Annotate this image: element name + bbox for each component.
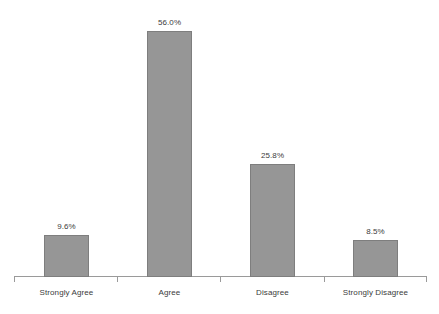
x-axis-tick-3 (324, 277, 325, 282)
bar-agree (147, 31, 192, 277)
plot-area: 9.6% Strongly Agree 56.0% Agree 25.8% Di… (0, 0, 439, 314)
x-axis-tick-2 (220, 277, 221, 282)
x-axis-tick-1 (117, 277, 118, 282)
bar-strongly-disagree (353, 240, 398, 277)
bar-value-strongly-disagree: 8.5% (345, 227, 406, 236)
bar-value-disagree: 25.8% (242, 151, 303, 160)
bar-strongly-agree (44, 235, 89, 277)
bar-disagree (250, 164, 295, 277)
category-label-strongly-disagree: Strongly Disagree (325, 288, 426, 297)
category-label-strongly-agree: Strongly Agree (16, 288, 117, 297)
category-label-disagree: Disagree (222, 288, 323, 297)
x-axis-tick-start (14, 277, 15, 282)
bar-value-agree: 56.0% (139, 18, 200, 27)
x-axis-tick-end (426, 277, 427, 282)
bar-value-strongly-agree: 9.6% (36, 222, 97, 231)
category-label-agree: Agree (119, 288, 220, 297)
bar-chart: 9.6% Strongly Agree 56.0% Agree 25.8% Di… (0, 0, 439, 314)
